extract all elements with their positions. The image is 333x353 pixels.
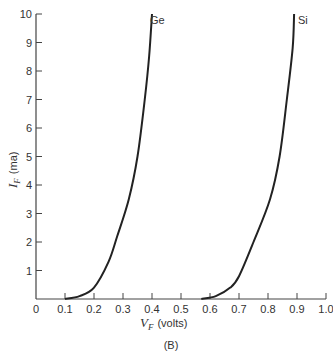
y-tick-label: 4 (26, 179, 32, 191)
series-label-ge: Ge (150, 14, 165, 26)
series-label-si: Si (298, 14, 308, 26)
x-tick-label: 0 (33, 303, 39, 315)
y-tick-label: 5 (26, 151, 32, 163)
y-tick-label: 7 (26, 94, 32, 106)
x-tick-label: 0.6 (202, 303, 217, 315)
y-tick-label: 1 (26, 265, 32, 277)
x-tick-label: 0.2 (86, 303, 101, 315)
curve-ge (65, 14, 152, 299)
y-tick-label: 9 (26, 37, 32, 49)
x-tick-label: 0.5 (173, 303, 188, 315)
y-tick-label: 6 (26, 122, 32, 134)
curves (65, 14, 294, 299)
x-tick-label: 1.0 (318, 303, 333, 315)
y-tick-label: 8 (26, 65, 32, 77)
x-tick-label: 0.4 (144, 303, 159, 315)
y-axis-label: IF(ma) (5, 152, 22, 189)
x-tick-label: 0.7 (231, 303, 246, 315)
x-tick-label: 0.8 (260, 303, 275, 315)
figure-caption: (B) (164, 339, 179, 351)
axes: 00.10.20.30.40.50.60.70.80.91.0123456789… (20, 8, 333, 315)
iv-chart: 00.10.20.30.40.50.60.70.80.91.0123456789… (0, 0, 333, 353)
x-tick-label: 0.9 (289, 303, 304, 315)
x-tick-label: 0.1 (57, 303, 72, 315)
y-tick-label: 2 (26, 236, 32, 248)
x-axis-label: VF(volts) (140, 315, 187, 332)
x-tick-label: 0.3 (115, 303, 130, 315)
y-tick-label: 3 (26, 208, 32, 220)
y-tick-label: 10 (20, 8, 32, 20)
curve-si (201, 14, 294, 299)
